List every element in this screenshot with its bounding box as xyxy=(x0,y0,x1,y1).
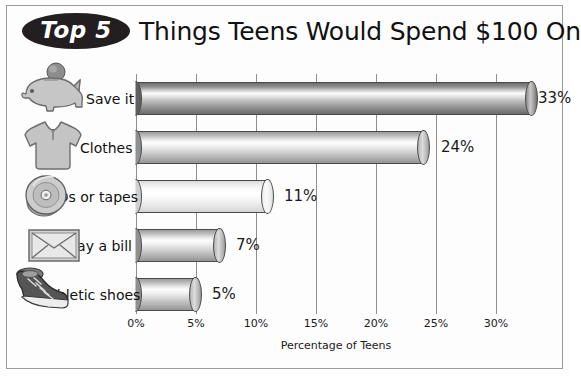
xtick-10: 10% xyxy=(244,317,268,330)
bar-pay-a-bill xyxy=(136,229,220,262)
bar-athletic-shoes xyxy=(136,278,196,311)
xtick-15: 15% xyxy=(304,317,328,330)
t-shirt-icon xyxy=(22,116,84,174)
bar-row-athletic-shoes xyxy=(136,278,196,311)
bar-body xyxy=(136,278,196,311)
xtick-0: 0% xyxy=(127,317,144,330)
envelope-icon xyxy=(27,226,81,264)
category-label-save-it: Save it xyxy=(86,91,132,107)
bar-body xyxy=(136,180,268,213)
compact-disc-icon xyxy=(20,172,72,222)
value-label-pay-a-bill: 7% xyxy=(236,236,260,254)
bar-cds-or-tapes xyxy=(136,180,268,213)
bar-body xyxy=(136,229,220,262)
bar-row-save-it xyxy=(136,82,532,115)
bar-body xyxy=(136,82,532,115)
bar-row-clothes xyxy=(136,131,424,164)
bar-row-pay-a-bill xyxy=(136,229,220,262)
bar-cap-right xyxy=(189,277,202,312)
piggy-bank-icon xyxy=(16,60,88,116)
bar-cap-right xyxy=(261,179,274,214)
value-label-athletic-shoes: 5% xyxy=(212,285,236,303)
x-axis-title: Percentage of Teens xyxy=(136,339,536,352)
value-label-cds-or-tapes: 11% xyxy=(284,187,317,205)
bar-body xyxy=(136,131,424,164)
xtick-25: 25% xyxy=(424,317,448,330)
bar-clothes xyxy=(136,131,424,164)
bar-cap-right xyxy=(213,228,226,263)
category-label-clothes: Clothes xyxy=(80,140,132,156)
bar-save-it xyxy=(136,82,532,115)
sneaker-icon xyxy=(14,264,72,314)
bar-row-cds-or-tapes xyxy=(136,180,268,213)
xtick-30: 30% xyxy=(484,317,508,330)
xtick-20: 20% xyxy=(364,317,388,330)
bar-cap-right xyxy=(417,130,430,165)
bar-cap-right xyxy=(525,81,538,116)
value-label-clothes: 24% xyxy=(441,138,474,156)
value-label-save-it: 33% xyxy=(538,89,571,107)
xtick-5: 5% xyxy=(187,317,204,330)
